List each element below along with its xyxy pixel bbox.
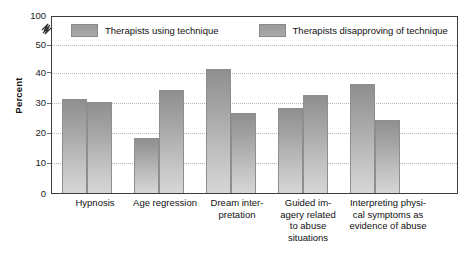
bar-dream-interpretation-using [206, 69, 231, 193]
bar-group-dream-interpretation [206, 69, 256, 193]
y-axis-ticks: 100 50 40 30 20 10 0 [8, 0, 46, 254]
bar-guided-imagery-using [278, 108, 303, 193]
x-axis-labels: Hypnosis Age regression Dream inter-pret… [51, 197, 458, 253]
bar-guided-imagery-disapproving [303, 95, 328, 193]
bar-interpreting-symptoms-disapproving [375, 120, 400, 193]
bar-hypnosis-disapproving [87, 102, 112, 193]
bar-age-regression-using [134, 138, 159, 193]
x-label-line: evidence of abuse [326, 220, 450, 232]
x-label-line: cal symptoms as [326, 209, 450, 221]
bar-group-age-regression [134, 90, 184, 193]
y-tick-0: 0 [16, 189, 46, 198]
bar-hypnosis-using [62, 99, 87, 193]
y-tick-40: 40 [16, 68, 46, 77]
bar-group-hypnosis [62, 99, 112, 193]
y-tick-50: 50 [16, 40, 46, 49]
y-tick-100: 100 [16, 11, 46, 20]
bar-interpreting-symptoms-using [350, 84, 375, 193]
y-tick-20: 20 [16, 128, 46, 137]
bar-chart: Percent 100 50 40 30 20 10 0 Therapists … [0, 0, 470, 254]
x-label-line: Interpreting physi- [326, 197, 450, 209]
bar-age-regression-disapproving [159, 90, 184, 193]
plot-area: Therapists using technique Therapists di… [51, 16, 458, 194]
x-label-line: situations [258, 232, 358, 244]
bar-dream-interpretation-disapproving [231, 113, 256, 193]
x-label-interpreting-symptoms: Interpreting physi-cal symptoms aseviden… [326, 197, 450, 232]
bar-series-container [52, 17, 457, 193]
y-tick-10: 10 [16, 158, 46, 167]
bar-group-guided-imagery [278, 95, 328, 193]
bar-group-interpreting-symptoms [350, 84, 400, 193]
y-tick-30: 30 [16, 98, 46, 107]
